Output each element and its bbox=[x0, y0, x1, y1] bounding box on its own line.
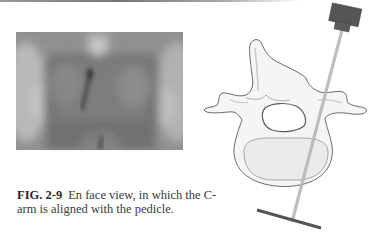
figure-label: FIG. 2-9 bbox=[17, 188, 62, 202]
c-arm-vertebra-diagram bbox=[200, 0, 380, 237]
figure-caption: FIG. 2-9En face view, in which the C-arm… bbox=[17, 188, 217, 216]
fluoroscopy-image bbox=[16, 32, 183, 150]
c-arm-emitter-icon bbox=[327, 3, 362, 34]
receiver-plate-icon bbox=[257, 210, 321, 228]
vertebra-icon bbox=[204, 40, 366, 187]
